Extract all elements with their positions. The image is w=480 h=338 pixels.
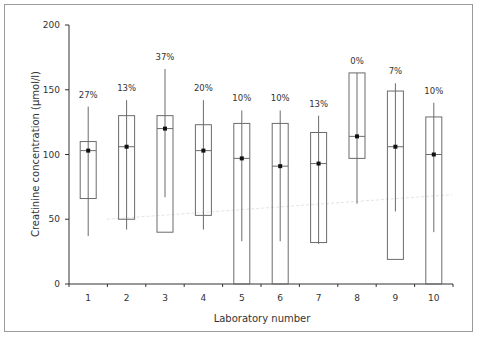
x-tick-label: 5 bbox=[239, 293, 245, 303]
mean-marker bbox=[125, 145, 129, 149]
percent-label: 10% bbox=[271, 93, 290, 103]
mean-marker bbox=[317, 162, 321, 166]
mean-marker bbox=[163, 127, 167, 131]
y-axis-title: Creatinine concentration (µmol/l) bbox=[30, 71, 41, 237]
x-tick-label: 8 bbox=[354, 293, 360, 303]
x-tick-label: 1 bbox=[85, 293, 91, 303]
box-lab-6: 10% bbox=[271, 93, 290, 284]
mean-marker bbox=[278, 164, 282, 168]
y-tick-label: 150 bbox=[43, 85, 60, 95]
x-axis-title: Laboratory number bbox=[214, 313, 312, 324]
y-tick-label: 200 bbox=[43, 20, 60, 30]
mean-marker bbox=[355, 134, 359, 138]
percent-label: 37% bbox=[156, 52, 175, 62]
box-lab-10: 10% bbox=[424, 86, 443, 284]
x-tick-label: 2 bbox=[124, 293, 130, 303]
mean-marker bbox=[86, 149, 90, 153]
percent-label: 7% bbox=[389, 66, 403, 76]
box-lab-7: 13% bbox=[309, 99, 328, 244]
box-plot-chart: 05010015020012345678910 27%13%37%20%10%1… bbox=[0, 0, 480, 338]
y-tick-label: 0 bbox=[54, 279, 60, 289]
axes: 05010015020012345678910 bbox=[43, 20, 453, 303]
percent-label: 10% bbox=[232, 93, 251, 103]
percent-label: 13% bbox=[309, 99, 328, 109]
mean-marker bbox=[393, 145, 397, 149]
mean-marker bbox=[432, 153, 436, 157]
mean-marker bbox=[201, 149, 205, 153]
boxes: 27%13%37%20%10%10%13%0%7%10% bbox=[79, 52, 444, 284]
box-lab-1: 27% bbox=[79, 90, 98, 237]
y-tick-label: 50 bbox=[49, 214, 61, 224]
percent-label: 20% bbox=[194, 83, 213, 93]
box-lab-5: 10% bbox=[232, 93, 251, 284]
percent-label: 13% bbox=[117, 83, 136, 93]
mean-marker bbox=[240, 156, 244, 160]
box-lab-8: 0% bbox=[349, 56, 365, 204]
faint-trend-line bbox=[107, 195, 452, 220]
x-tick-label: 4 bbox=[201, 293, 207, 303]
x-tick-label: 6 bbox=[277, 293, 283, 303]
box-lab-2: 13% bbox=[117, 83, 136, 230]
x-tick-label: 7 bbox=[316, 293, 322, 303]
reference-line bbox=[107, 195, 452, 220]
percent-label: 10% bbox=[424, 86, 443, 96]
box-lab-4: 20% bbox=[194, 83, 213, 230]
percent-label: 0% bbox=[350, 56, 364, 66]
box-lab-3: 37% bbox=[156, 52, 175, 232]
box-lab-9: 7% bbox=[387, 66, 403, 259]
x-tick-label: 10 bbox=[428, 293, 440, 303]
y-tick-label: 100 bbox=[43, 150, 60, 160]
x-tick-label: 3 bbox=[162, 293, 168, 303]
x-tick-label: 9 bbox=[393, 293, 399, 303]
percent-label: 27% bbox=[79, 90, 98, 100]
